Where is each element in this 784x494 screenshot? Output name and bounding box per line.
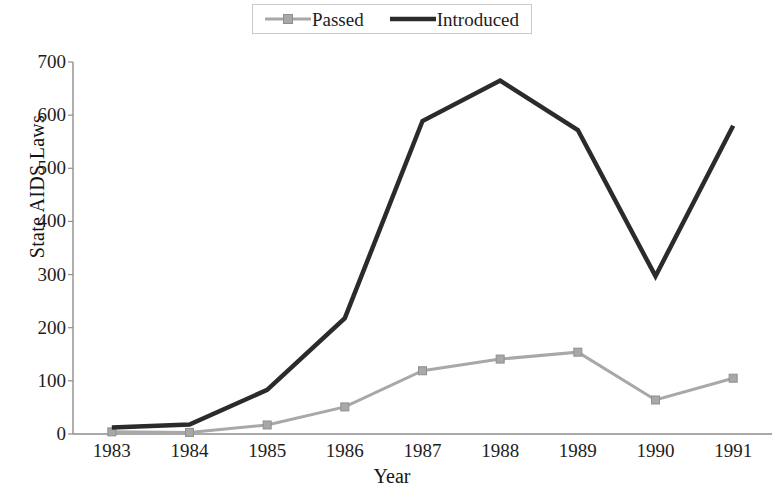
data-point-marker [496, 355, 504, 363]
chart-figure: Passed Introduced State AIDS Laws 010020… [0, 0, 784, 494]
data-point-marker [419, 367, 427, 375]
data-point-marker [652, 396, 660, 404]
data-point-marker [729, 374, 737, 382]
series-introduced [112, 81, 733, 428]
data-point-marker [341, 403, 349, 411]
series-passed [108, 348, 737, 436]
data-point-marker [574, 348, 582, 356]
data-series-layer [108, 81, 737, 437]
series-line [112, 352, 733, 432]
plot-area [0, 0, 784, 494]
series-line [112, 81, 733, 428]
axis-lines [68, 62, 772, 434]
data-point-marker [186, 428, 194, 436]
data-point-marker [263, 421, 271, 429]
